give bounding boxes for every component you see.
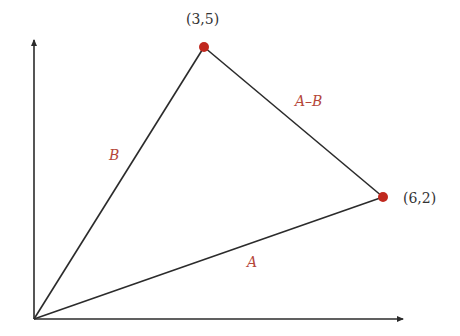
vector-b-line	[34, 47, 204, 319]
vector-diagram: (3,5) (6,2) B A A–B	[0, 0, 460, 336]
point-a-tip	[378, 192, 388, 202]
point-label-3-5: (3,5)	[186, 11, 219, 27]
point-label-6-2: (6,2)	[403, 190, 436, 206]
vector-a-line	[34, 197, 383, 319]
point-b-tip	[199, 42, 209, 52]
vector-label-a-minus-b: A–B	[293, 93, 322, 109]
vector-a-minus-b-line	[204, 47, 383, 197]
vector-label-a: A	[245, 254, 257, 270]
vector-label-b: B	[108, 147, 119, 163]
